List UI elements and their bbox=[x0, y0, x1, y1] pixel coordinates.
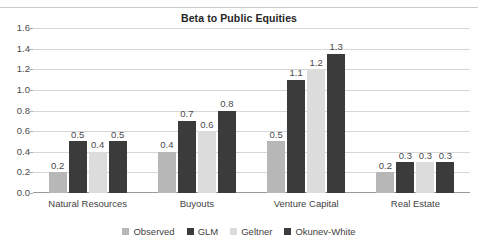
chart-title: Beta to Public Equities bbox=[0, 12, 478, 24]
y-axis-tick bbox=[29, 131, 33, 132]
legend-label: Okunev-White bbox=[295, 226, 355, 237]
bar-value-label: 0.4 bbox=[91, 140, 104, 150]
top-divider bbox=[0, 7, 478, 8]
legend-label: Geltner bbox=[241, 226, 272, 237]
legend-item[interactable]: Observed bbox=[122, 226, 174, 237]
x-axis-category-label: Buyouts bbox=[142, 198, 251, 209]
bar-value-label: 0.3 bbox=[439, 151, 452, 161]
legend-label: GLM bbox=[198, 226, 219, 237]
y-axis-tick-label: 1.4 bbox=[4, 44, 30, 54]
legend-swatch-icon bbox=[284, 228, 291, 235]
bar-value-label: 0.4 bbox=[160, 140, 173, 150]
y-axis-tick bbox=[29, 90, 33, 91]
bar-value-label: 0.5 bbox=[71, 130, 84, 140]
y-axis-tick-label: 1.0 bbox=[4, 85, 30, 95]
y-axis-tick bbox=[29, 28, 33, 29]
x-axis-category-label: Natural Resources bbox=[33, 198, 142, 209]
bar[interactable] bbox=[396, 162, 414, 193]
bar-value-label: 0.3 bbox=[399, 151, 412, 161]
bar-slot: 0.2 bbox=[376, 28, 394, 193]
bar-value-label: 0.5 bbox=[270, 130, 283, 140]
bar-slot: 0.4 bbox=[89, 28, 107, 193]
legend-item[interactable]: Okunev-White bbox=[284, 226, 355, 237]
bar-slot: 0.3 bbox=[436, 28, 454, 193]
legend-swatch-icon bbox=[230, 228, 237, 235]
bar[interactable] bbox=[109, 141, 127, 193]
bar-slot: 0.2 bbox=[49, 28, 67, 193]
bar-value-label: 0.7 bbox=[180, 109, 193, 119]
bar-slot: 0.3 bbox=[396, 28, 414, 193]
bar[interactable] bbox=[287, 80, 305, 193]
bar-slot: 1.3 bbox=[327, 28, 345, 193]
bar[interactable] bbox=[416, 162, 434, 193]
bar-group: 0.20.50.40.5 bbox=[49, 28, 127, 193]
bar-slot: 0.6 bbox=[198, 28, 216, 193]
bar-value-label: 1.3 bbox=[330, 42, 343, 52]
y-axis-tick bbox=[29, 193, 33, 194]
bar[interactable] bbox=[69, 141, 87, 193]
bar-value-label: 0.8 bbox=[220, 99, 233, 109]
legend-label: Observed bbox=[133, 226, 174, 237]
chart-legend: ObservedGLMGeltnerOkunev-White bbox=[0, 226, 478, 237]
bar-slot: 0.7 bbox=[178, 28, 196, 193]
y-axis-tick bbox=[29, 49, 33, 50]
bar-value-label: 1.1 bbox=[290, 68, 303, 78]
y-axis-tick-label: 0.6 bbox=[4, 126, 30, 136]
bar-slot: 0.5 bbox=[109, 28, 127, 193]
bar-slot: 0.3 bbox=[416, 28, 434, 193]
x-axis-category-label: Real Estate bbox=[361, 198, 470, 209]
bar-slot: 0.8 bbox=[218, 28, 236, 193]
legend-item[interactable]: GLM bbox=[187, 226, 219, 237]
legend-swatch-icon bbox=[187, 228, 194, 235]
y-axis-tick bbox=[29, 172, 33, 173]
bar-value-label: 0.2 bbox=[379, 161, 392, 171]
y-axis-tick-label: 1.2 bbox=[4, 64, 30, 74]
chart-container: Beta to Public Equities 0.00.20.40.60.81… bbox=[0, 0, 478, 249]
bar-slot: 0.5 bbox=[267, 28, 285, 193]
bar[interactable] bbox=[436, 162, 454, 193]
bar-group: 0.20.30.30.3 bbox=[376, 28, 454, 193]
bar[interactable] bbox=[178, 121, 196, 193]
y-axis-tick bbox=[29, 69, 33, 70]
legend-swatch-icon bbox=[122, 228, 129, 235]
bar-value-label: 1.2 bbox=[310, 58, 323, 68]
bar-value-label: 0.2 bbox=[51, 161, 64, 171]
bar[interactable] bbox=[376, 172, 394, 193]
bar-slot: 0.4 bbox=[158, 28, 176, 193]
legend-item[interactable]: Geltner bbox=[230, 226, 272, 237]
y-axis: 0.00.20.40.60.81.01.21.41.6 bbox=[0, 28, 30, 193]
y-axis-tick-label: 0.4 bbox=[4, 147, 30, 157]
plot-area: 0.20.50.40.50.40.70.60.80.51.11.21.30.20… bbox=[33, 28, 470, 193]
y-axis-tick-label: 1.6 bbox=[4, 23, 30, 33]
y-axis-tick bbox=[29, 152, 33, 153]
y-axis-tick-label: 0.2 bbox=[4, 167, 30, 177]
bar-value-label: 0.5 bbox=[111, 130, 124, 140]
bar-slot: 0.5 bbox=[69, 28, 87, 193]
y-axis-tick-label: 0.8 bbox=[4, 106, 30, 116]
bar-slot: 1.2 bbox=[307, 28, 325, 193]
y-axis-tick-label: 0.0 bbox=[4, 188, 30, 198]
y-axis-tick bbox=[29, 111, 33, 112]
bar[interactable] bbox=[198, 131, 216, 193]
bar[interactable] bbox=[49, 172, 67, 193]
bar-group: 0.51.11.21.3 bbox=[267, 28, 345, 193]
bar-value-label: 0.6 bbox=[200, 120, 213, 130]
bar[interactable] bbox=[89, 152, 107, 193]
bar[interactable] bbox=[307, 69, 325, 193]
bar-slot: 1.1 bbox=[287, 28, 305, 193]
bar[interactable] bbox=[267, 141, 285, 193]
bar-value-label: 0.3 bbox=[419, 151, 432, 161]
x-axis-category-label: Venture Capital bbox=[252, 198, 361, 209]
bar-group: 0.40.70.60.8 bbox=[158, 28, 236, 193]
bar[interactable] bbox=[158, 152, 176, 193]
bar[interactable] bbox=[327, 54, 345, 193]
bar[interactable] bbox=[218, 111, 236, 194]
